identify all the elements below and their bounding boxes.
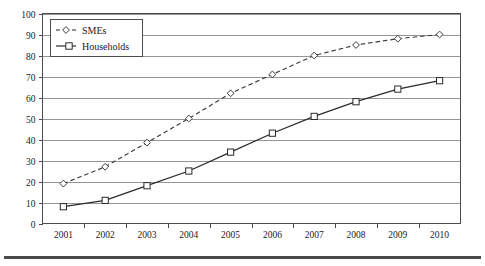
data-point-marker: [186, 168, 192, 174]
data-point-marker: [311, 52, 318, 59]
x-tick-label: 2005: [221, 230, 240, 240]
y-tick-label: 50: [26, 115, 36, 125]
data-point-marker: [185, 115, 192, 122]
y-axis-ticks: 0102030405060708090100: [21, 10, 42, 230]
data-point-marker: [353, 42, 360, 49]
series-households: [60, 78, 442, 210]
y-tick-label: 80: [26, 52, 36, 62]
x-tick-label: 2007: [305, 230, 324, 240]
y-tick-label: 100: [21, 10, 36, 20]
data-point-marker: [60, 180, 67, 187]
x-tick-label: 2003: [138, 230, 157, 240]
x-tick-label: 2004: [179, 230, 198, 240]
square-marker-icon: [66, 43, 72, 49]
data-point-marker: [228, 149, 234, 155]
y-tick-label: 30: [26, 157, 36, 167]
series-path: [63, 81, 439, 207]
x-axis-labels: 2001200220032004200520062007200820092010: [0, 226, 485, 248]
x-tick-label: 2006: [263, 230, 282, 240]
data-point-marker: [436, 31, 443, 38]
y-tick-label: 20: [26, 178, 36, 188]
x-tick-label: 2001: [54, 230, 73, 240]
y-tick-label: 70: [26, 73, 36, 83]
data-point-marker: [395, 86, 401, 92]
x-tick-label: 2002: [96, 230, 115, 240]
data-point-marker: [394, 35, 401, 42]
data-point-marker: [102, 197, 108, 203]
legend-label-smes: SMEs: [82, 25, 107, 36]
data-point-marker: [60, 204, 66, 210]
data-point-marker: [269, 71, 276, 78]
y-tick-label: 10: [26, 199, 36, 209]
legend-label-households: Households: [82, 41, 129, 52]
footer-rule: [4, 256, 481, 259]
data-point-marker: [144, 183, 150, 189]
x-tick-label: 2009: [388, 230, 407, 240]
line-chart: 0102030405060708090100 SMEs Households: [0, 0, 485, 248]
data-point-marker: [311, 113, 317, 119]
y-tick-label: 60: [26, 94, 36, 104]
data-point-marker: [437, 78, 443, 84]
chart-figure: 0102030405060708090100 SMEs Households 2…: [0, 0, 485, 266]
data-point-marker: [269, 130, 275, 136]
y-tick-label: 90: [26, 31, 36, 41]
data-point-marker: [227, 90, 234, 97]
data-point-marker: [102, 163, 109, 170]
data-point-marker: [353, 99, 359, 105]
x-tick-label: 2010: [430, 230, 449, 240]
chart-legend: SMEs Households: [51, 20, 143, 57]
y-tick-label: 40: [26, 136, 36, 146]
x-tick-label: 2008: [347, 230, 366, 240]
